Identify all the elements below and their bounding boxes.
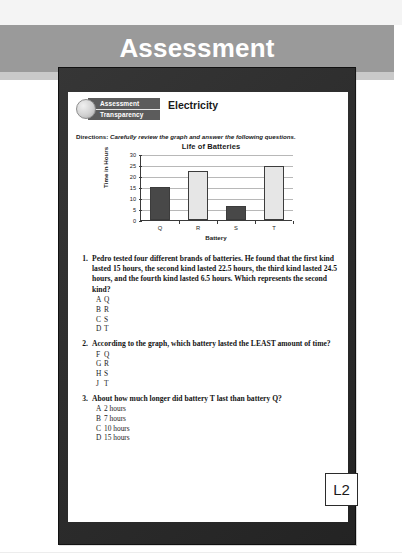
answer-choice[interactable]: D15 hours	[96, 433, 341, 443]
answer-choice-text: 15 hours	[104, 433, 130, 443]
question-number: 1.	[77, 254, 88, 295]
chart-x-tick-label: R	[188, 225, 208, 231]
question-number: 2.	[77, 339, 88, 349]
question-stem-row: 3.About how much longer did battery T la…	[77, 394, 341, 404]
chart-y-tick-label: 20	[120, 174, 136, 180]
question-stem-row: 1.Pedro tested four different brands of …	[77, 254, 341, 295]
answer-choice-text: 10 hours	[104, 424, 130, 434]
answer-choice-letter: B	[96, 305, 104, 315]
chart-bar	[264, 166, 284, 220]
answer-choice-text: 7 hours	[104, 414, 126, 424]
sphere-icon	[76, 99, 96, 119]
answer-choice-text: 2 hours	[104, 404, 126, 414]
level-badge-label: L2	[333, 481, 350, 498]
chart-y-tick-label: 30	[120, 152, 136, 158]
chart-y-tick-mark	[139, 199, 142, 200]
directions-line: Directions: Carefully review the graph a…	[76, 125, 340, 136]
answer-choice-letter: B	[96, 414, 104, 424]
answer-choice-text: S	[104, 369, 108, 379]
chart-bar	[226, 206, 246, 220]
answer-choice[interactable]: C10 hours	[96, 424, 341, 434]
answer-choice-text: R	[104, 305, 109, 315]
bar-chart: Life of Batteries Time in Hours 05101520…	[118, 142, 304, 247]
chart-x-tick-mark	[255, 221, 256, 224]
answer-choice[interactable]: HS	[96, 369, 341, 379]
answer-choice-letter: F	[96, 350, 104, 360]
chart-bar	[188, 171, 208, 221]
chart-y-tick-mark	[139, 177, 142, 178]
answer-choice-letter: A	[96, 404, 104, 414]
question-text: According to the graph, which battery la…	[88, 339, 331, 349]
worksheet-frame: Assessment Transparency Electricity Dire…	[58, 67, 356, 545]
answer-choice-text: T	[104, 324, 109, 334]
banner-title: Assessment	[119, 33, 274, 64]
chart-y-tick-mark	[139, 221, 142, 222]
answer-choice-letter: H	[96, 369, 104, 379]
bottom-rule	[0, 552, 402, 553]
chart-x-tick-mark	[293, 221, 294, 224]
worksheet-topic-title: Electricity	[168, 99, 218, 111]
answer-choice-letter: G	[96, 359, 104, 369]
answer-choice-text: R	[104, 359, 109, 369]
directions-label: Directions:	[76, 133, 108, 140]
screenshot-root: Assessment Assessment Transparency Elect…	[0, 0, 402, 558]
answer-choice-text: S	[104, 315, 108, 325]
chart-bar	[150, 187, 170, 220]
worksheet-header: Assessment Transparency Electricity	[76, 97, 340, 121]
answer-choice-letter: D	[96, 324, 104, 334]
logo-label-assessment: Assessment	[100, 99, 139, 109]
answer-choice-letter: A	[96, 295, 104, 305]
level-badge: L2	[325, 473, 358, 506]
worksheet-page: Assessment Transparency Electricity Dire…	[68, 92, 348, 522]
answer-choice-list: A2 hoursB7 hoursC10 hoursD15 hours	[96, 404, 341, 442]
answer-choice[interactable]: FQ	[96, 350, 341, 360]
chart-x-tick-label: S	[226, 225, 246, 231]
answer-choice[interactable]: DT	[96, 324, 341, 334]
answer-choice-letter: J	[96, 379, 104, 389]
answer-choice-list: AQBRCSDT	[96, 295, 341, 333]
chart-y-tick-mark	[139, 210, 142, 211]
answer-choice[interactable]: JT	[96, 379, 341, 389]
question-text: Pedro tested four different brands of ba…	[88, 254, 341, 295]
chart-y-axis-title: Time in Hours	[102, 147, 109, 188]
answer-choice[interactable]: AQ	[96, 295, 341, 305]
question-item: 2.According to the graph, which battery …	[77, 339, 341, 388]
chart-y-tick-mark	[139, 166, 142, 167]
answer-choice[interactable]: BR	[96, 305, 341, 315]
answer-choice-letter: C	[96, 424, 104, 434]
question-list: 1.Pedro tested four different brands of …	[77, 254, 341, 448]
chart-x-axis-title: Battery	[140, 234, 292, 241]
top-strip	[0, 0, 402, 25]
answer-choice-text: T	[104, 379, 109, 389]
answer-choice[interactable]: B7 hours	[96, 414, 341, 424]
assessment-transparency-logo: Assessment Transparency	[76, 98, 160, 120]
answer-choice-text: Q	[104, 350, 109, 360]
assessment-banner: Assessment	[0, 25, 394, 72]
chart-y-tick-label: 10	[120, 196, 136, 202]
question-text: About how much longer did battery T last…	[88, 394, 282, 404]
chart-title: Life of Batteries	[118, 142, 304, 151]
question-stem-row: 2.According to the graph, which battery …	[77, 339, 341, 349]
answer-choice[interactable]: A2 hours	[96, 404, 341, 414]
chart-x-tick-mark	[179, 221, 180, 224]
question-item: 1.Pedro tested four different brands of …	[77, 254, 341, 334]
chart-y-tick-label: 5	[120, 207, 136, 213]
logo-label-transparency: Transparency	[100, 110, 143, 120]
chart-gridline	[141, 155, 293, 156]
chart-y-tick-label: 15	[120, 185, 136, 191]
chart-x-tick-label: Q	[150, 225, 170, 231]
chart-x-tick-mark	[217, 221, 218, 224]
answer-choice[interactable]: CS	[96, 315, 341, 325]
answer-choice-letter: D	[96, 433, 104, 443]
question-item: 3.About how much longer did battery T la…	[77, 394, 341, 443]
chart-y-tick-label: 0	[120, 218, 136, 224]
chart-y-tick-mark	[139, 155, 142, 156]
question-number: 3.	[77, 394, 88, 404]
answer-choice[interactable]: GR	[96, 359, 341, 369]
chart-y-tick-mark	[139, 188, 142, 189]
chart-y-tick-label: 25	[120, 163, 136, 169]
answer-choice-list: FQGRHSJT	[96, 350, 341, 388]
chart-plot-area: 051015202530QRST	[140, 155, 292, 221]
directions-text: Carefully review the graph and answer th…	[108, 133, 295, 140]
answer-choice-text: Q	[104, 295, 109, 305]
